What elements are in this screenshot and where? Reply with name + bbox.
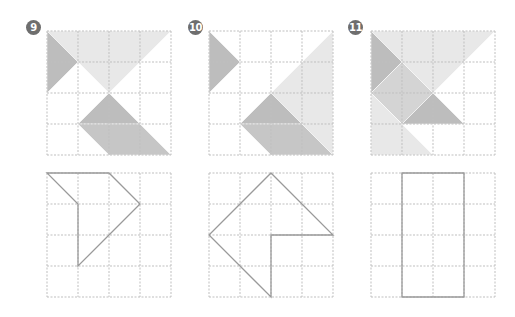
target-outline-grid [46, 172, 172, 298]
target-outline-grid [370, 172, 496, 298]
tangram-solution-grid [208, 30, 334, 156]
target-shape-outline [47, 173, 140, 266]
target-outline-grid [208, 172, 334, 298]
tangram-piece [78, 124, 171, 155]
puzzle-number-badge: 10 [188, 20, 203, 35]
puzzle-number-badge: 11 [348, 20, 363, 35]
puzzle-number-badge: 9 [26, 20, 41, 35]
tangram-solution-grid [46, 30, 172, 156]
tangram-solution-grid [370, 30, 496, 156]
grid-lines [371, 173, 495, 297]
